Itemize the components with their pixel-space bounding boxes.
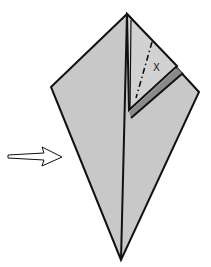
- label-x: X: [153, 62, 160, 73]
- push-arrow-icon: [8, 147, 62, 166]
- origami-diagram: X: [0, 0, 211, 267]
